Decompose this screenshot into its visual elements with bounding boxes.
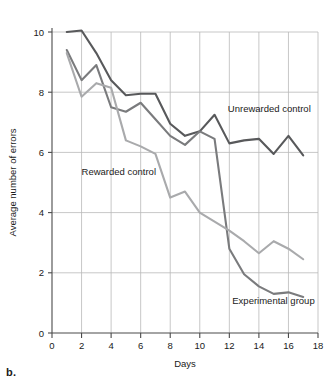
y-tick-label: 0 (39, 328, 44, 339)
x-tick-label: 6 (138, 340, 143, 351)
x-tick-label: 0 (49, 340, 54, 351)
y-axis-title: Average number of errors (7, 128, 18, 236)
series-label-1: Experimental group (232, 295, 314, 306)
data-series (67, 30, 303, 296)
tick-marks (48, 32, 318, 338)
y-tick-label: 10 (33, 27, 44, 38)
panel-caption: b. (6, 366, 16, 378)
x-tick-label: 10 (194, 340, 205, 351)
x-tick-label: 2 (79, 340, 84, 351)
x-tick-label: 18 (313, 340, 324, 351)
series-line-2 (67, 53, 303, 259)
series-label-2: Rewarded control (82, 166, 156, 177)
series-line-0 (67, 30, 303, 155)
x-tick-label: 4 (108, 340, 113, 351)
gridlines (52, 32, 318, 333)
errors-vs-days-line-chart: 0246810024681012141618 Unrewarded contro… (0, 0, 334, 386)
y-tick-label: 2 (39, 267, 44, 278)
x-tick-label: 8 (168, 340, 173, 351)
x-axis-title: Days (174, 358, 196, 369)
y-tick-label: 6 (39, 147, 44, 158)
x-tick-label: 16 (283, 340, 294, 351)
y-tick-label: 8 (39, 87, 44, 98)
series-label-0: Unrewarded control (228, 103, 311, 114)
y-tick-label: 4 (39, 207, 44, 218)
x-tick-label: 14 (254, 340, 265, 351)
axes (52, 28, 318, 333)
figure-panel: 0246810024681012141618 Unrewarded contro… (0, 0, 334, 386)
x-tick-label: 12 (224, 340, 235, 351)
